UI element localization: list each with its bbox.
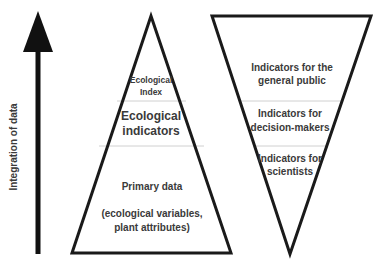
inverted-triangle-outline [212,16,371,254]
tier-1-line-2: Index [140,87,162,97]
tier-3-line-3: (ecological variables, [101,208,202,219]
tier-2-line-1: Ecological [121,109,181,123]
integration-arrow [23,11,53,254]
left-pyramid: Ecological Index Ecological indicators P… [72,16,231,253]
right-pyramid: Indicators for the general public Indica… [212,16,371,254]
right-tier-3-line-1: Indicators for [258,153,322,164]
arrow-head-icon [23,11,53,52]
right-tier-3-line-2: scientists [267,166,314,177]
right-tier-1-line-1: Indicators for the [251,62,333,73]
diagram-canvas: Integration of data Ecological Index Eco… [0,0,379,266]
right-tier-2-line-1: Indicators for [258,108,322,119]
axis-label: Integration of data [8,103,19,191]
right-tier-2-line-2: decision-makers [251,122,330,133]
right-tier-1-line-2: general public [258,75,326,86]
tier-3-line-4: plant attributes) [114,222,190,233]
tier-2-line-2: indicators [122,124,180,138]
tier-3-line-1: Primary data [122,181,183,192]
tier-1-line-1: Ecological [130,75,173,85]
arrow-shaft [36,48,41,254]
